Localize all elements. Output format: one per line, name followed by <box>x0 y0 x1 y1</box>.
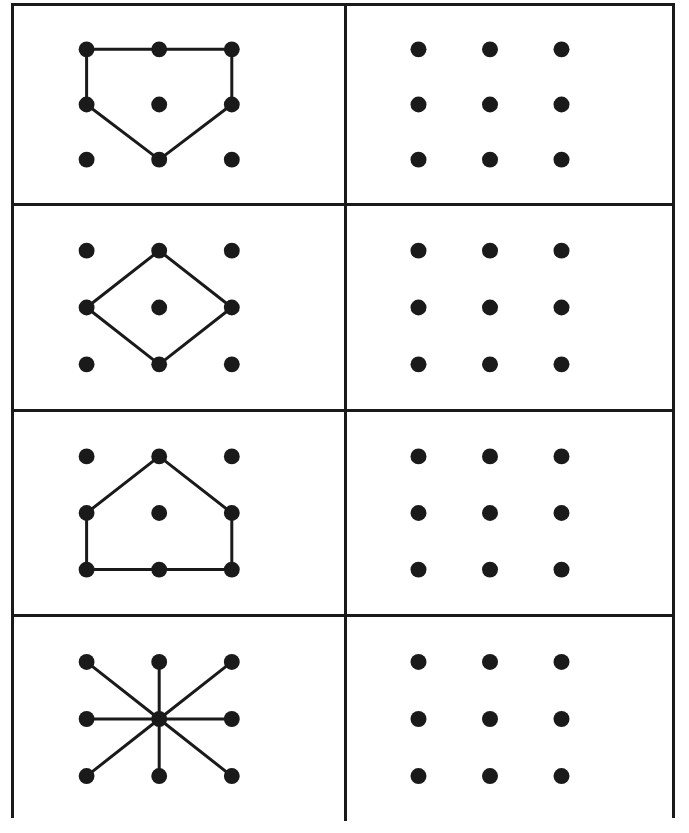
grid-dot-bottom-left[interactable] <box>79 768 95 784</box>
grid-dot-top-right[interactable] <box>224 449 240 465</box>
grid-cell-diamond-rhombus[interactable] <box>14 206 347 409</box>
grid-dot-top-center[interactable] <box>151 243 167 259</box>
grid-dot-center[interactable] <box>482 711 498 727</box>
grid-dot-top-right[interactable] <box>554 449 570 465</box>
grid-dot-bottom-left[interactable] <box>79 562 95 578</box>
grid-dot-mid-right[interactable] <box>224 300 240 316</box>
grid-dot-center[interactable] <box>151 505 167 521</box>
grid-cell-pentagon-home-plate-inverted[interactable] <box>14 6 347 203</box>
grid-dot-bottom-center[interactable] <box>151 562 167 578</box>
grid-dot-mid-left[interactable] <box>411 711 427 727</box>
dot-grid-canvas <box>14 6 344 203</box>
grid-dot-top-right[interactable] <box>554 41 570 57</box>
grid-dot-top-center[interactable] <box>482 41 498 57</box>
grid-dot-top-left[interactable] <box>411 449 427 465</box>
grid-dot-center[interactable] <box>151 711 167 727</box>
grid-cell-blank-dot-grid[interactable] <box>347 412 672 614</box>
dot-grid-dots <box>411 449 570 578</box>
worksheet-grid-frame <box>11 3 675 818</box>
grid-dot-bottom-right[interactable] <box>224 152 240 168</box>
grid-dot-top-center[interactable] <box>151 654 167 670</box>
grid-dot-mid-right[interactable] <box>554 97 570 113</box>
grid-dot-center[interactable] <box>482 505 498 521</box>
grid-dot-bottom-center[interactable] <box>151 152 167 168</box>
grid-dot-top-center[interactable] <box>482 449 498 465</box>
grid-dot-mid-left[interactable] <box>411 300 427 316</box>
grid-cell-house-pentagon[interactable] <box>14 412 347 614</box>
grid-dot-bottom-left[interactable] <box>79 356 95 372</box>
grid-dot-bottom-left[interactable] <box>411 562 427 578</box>
grid-dot-mid-left[interactable] <box>79 505 95 521</box>
pattern-edge <box>159 308 232 365</box>
grid-dot-bottom-right[interactable] <box>224 356 240 372</box>
grid-dot-mid-right[interactable] <box>224 711 240 727</box>
grid-cell-eight-spoke-star-asterisk[interactable] <box>14 617 347 821</box>
grid-dot-top-center[interactable] <box>151 41 167 57</box>
grid-dot-bottom-center[interactable] <box>482 152 498 168</box>
grid-dot-center[interactable] <box>482 300 498 316</box>
grid-dot-top-left[interactable] <box>79 41 95 57</box>
dot-grid-canvas <box>14 206 344 409</box>
grid-dot-bottom-right[interactable] <box>224 768 240 784</box>
grid-dot-center[interactable] <box>151 300 167 316</box>
grid-cell-blank-dot-grid[interactable] <box>347 206 672 409</box>
dot-grid-dots <box>79 41 240 167</box>
grid-dot-top-right[interactable] <box>554 243 570 259</box>
grid-dot-bottom-left[interactable] <box>411 152 427 168</box>
dot-grid-dots <box>79 243 240 372</box>
grid-cell-blank-dot-grid[interactable] <box>347 617 672 821</box>
worksheet-row <box>14 412 672 617</box>
grid-dot-bottom-center[interactable] <box>482 356 498 372</box>
grid-dot-bottom-right[interactable] <box>554 356 570 372</box>
grid-dot-mid-left[interactable] <box>79 97 95 113</box>
grid-dot-mid-right[interactable] <box>554 711 570 727</box>
grid-dot-bottom-right[interactable] <box>554 152 570 168</box>
pattern-edge <box>87 662 160 719</box>
grid-dot-mid-left[interactable] <box>79 300 95 316</box>
dot-grid-canvas <box>14 412 344 614</box>
grid-dot-mid-left[interactable] <box>411 97 427 113</box>
grid-dot-mid-left[interactable] <box>411 505 427 521</box>
grid-dot-mid-right[interactable] <box>224 97 240 113</box>
grid-dot-mid-right[interactable] <box>554 505 570 521</box>
grid-dot-top-right[interactable] <box>224 243 240 259</box>
grid-dot-bottom-right[interactable] <box>224 562 240 578</box>
dot-grid-worksheet <box>0 0 689 833</box>
grid-dot-mid-left[interactable] <box>79 711 95 727</box>
grid-dot-top-left[interactable] <box>411 654 427 670</box>
dot-grid-dots <box>411 243 570 372</box>
dot-grid-canvas <box>347 617 672 821</box>
grid-dot-bottom-center[interactable] <box>482 768 498 784</box>
grid-dot-top-center[interactable] <box>482 243 498 259</box>
worksheet-row <box>14 206 672 412</box>
grid-dot-top-left[interactable] <box>79 654 95 670</box>
grid-dot-top-center[interactable] <box>151 449 167 465</box>
grid-dot-mid-right[interactable] <box>224 505 240 521</box>
grid-dot-center[interactable] <box>482 97 498 113</box>
grid-cell-blank-dot-grid[interactable] <box>347 6 672 203</box>
grid-dot-bottom-right[interactable] <box>554 768 570 784</box>
grid-dot-bottom-center[interactable] <box>151 768 167 784</box>
pattern-edge <box>87 251 160 308</box>
grid-dot-top-right[interactable] <box>554 654 570 670</box>
pattern-edge <box>87 456 160 513</box>
grid-dot-top-left[interactable] <box>411 243 427 259</box>
grid-dot-bottom-left[interactable] <box>411 356 427 372</box>
dot-grid-dots <box>411 41 570 167</box>
grid-dot-bottom-center[interactable] <box>151 356 167 372</box>
grid-dot-top-right[interactable] <box>224 654 240 670</box>
grid-dot-top-left[interactable] <box>79 243 95 259</box>
grid-dot-top-right[interactable] <box>224 41 240 57</box>
grid-dot-bottom-left[interactable] <box>411 768 427 784</box>
grid-dot-bottom-left[interactable] <box>79 152 95 168</box>
grid-dot-bottom-center[interactable] <box>482 562 498 578</box>
grid-dot-top-left[interactable] <box>79 449 95 465</box>
grid-dot-center[interactable] <box>151 97 167 113</box>
dot-grid-canvas <box>14 617 344 821</box>
grid-dot-top-center[interactable] <box>482 654 498 670</box>
pattern-edge <box>159 251 232 308</box>
pattern-edge <box>87 105 160 160</box>
grid-dot-mid-right[interactable] <box>554 300 570 316</box>
grid-dot-bottom-right[interactable] <box>554 562 570 578</box>
grid-dot-top-left[interactable] <box>411 41 427 57</box>
